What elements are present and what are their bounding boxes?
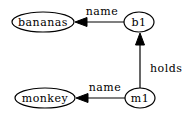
node-monkey[interactable]: monkey [15, 88, 75, 108]
node-label-bananas: bananas [18, 16, 68, 29]
node-m1[interactable]: m1 [125, 88, 155, 108]
node-label-m1: m1 [131, 92, 149, 105]
graph-diagram: name name holds bananas b1 monkey [0, 0, 187, 120]
edge-m1-to-b1: holds [136, 33, 183, 88]
node-b1[interactable]: b1 [124, 12, 154, 32]
arrowhead-icon [136, 33, 145, 45]
edge-label-name-bottom: name [89, 81, 122, 94]
node-bananas[interactable]: bananas [12, 12, 74, 32]
edge-b1-to-bananas: name [75, 5, 124, 27]
node-label-b1: b1 [131, 16, 146, 29]
arrowhead-icon [75, 18, 87, 27]
node-label-monkey: monkey [22, 92, 69, 105]
edge-label-name-top: name [86, 5, 119, 18]
edge-m1-to-monkey: name [76, 81, 125, 103]
arrowhead-icon [76, 94, 88, 103]
edge-label-holds: holds [150, 62, 182, 75]
